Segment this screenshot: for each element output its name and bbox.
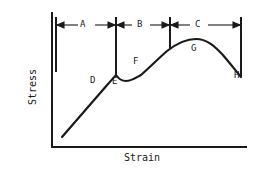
arrowhead-left-c <box>171 22 178 28</box>
arrowhead-right-c <box>233 22 240 28</box>
point-label-d: D <box>90 76 95 85</box>
arrowhead-left-b <box>117 22 124 28</box>
axis-lines <box>51 12 247 147</box>
y-axis-title: Stress <box>28 69 38 105</box>
point-label-e: E <box>112 77 117 86</box>
point-label-g: G <box>191 44 196 53</box>
point-label-h: H <box>234 71 239 80</box>
region-label-c: C <box>194 20 201 29</box>
stress-strain-plot-svg <box>0 0 255 170</box>
dimension-arrow-c <box>171 22 240 28</box>
point-label-f: F <box>133 57 138 66</box>
arrowhead-right-a <box>108 22 115 28</box>
stress-strain-curve <box>62 39 241 137</box>
arrowhead-left-a <box>57 22 64 28</box>
arrowhead-right-b <box>162 22 169 28</box>
region-label-b: B <box>136 20 143 29</box>
region-label-a: A <box>79 20 86 29</box>
stress-strain-figure: A B C D E F G H Stress Strain <box>0 0 255 170</box>
x-axis-title: Strain <box>124 153 160 163</box>
